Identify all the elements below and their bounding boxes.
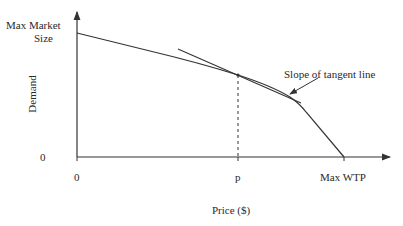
annotation-arrow — [290, 78, 318, 94]
x-axis-label: Price ($) — [212, 204, 250, 216]
demand-diagram — [0, 0, 403, 226]
x-p-label: p — [235, 171, 241, 183]
y-top-label-line2: Size — [34, 32, 53, 44]
tangent-annotation-label: Slope of tangent line — [284, 68, 375, 80]
y-zero-label: 0 — [40, 151, 46, 163]
y-top-label-line1: Max Market — [6, 19, 61, 31]
demand-curve — [77, 33, 344, 157]
x-max-label: Max WTP — [320, 171, 366, 183]
y-axis-label: Demand — [26, 75, 38, 112]
x-zero-label: 0 — [74, 171, 80, 183]
tangent-line — [178, 49, 301, 103]
